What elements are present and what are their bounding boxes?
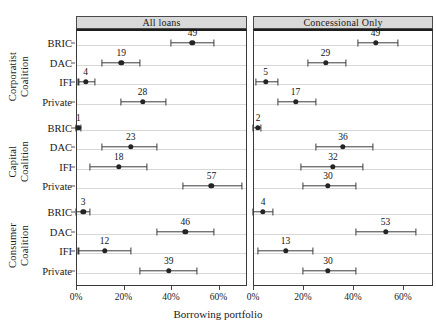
data-point-value: 12 xyxy=(100,236,110,246)
data-point-value: 1 xyxy=(76,113,81,123)
gridline xyxy=(254,169,432,170)
gridline xyxy=(254,273,432,274)
data-point-value: 32 xyxy=(328,152,338,162)
data-point-value: 3 xyxy=(81,197,86,207)
data-point-value: 29 xyxy=(321,48,331,58)
x-axis-tick xyxy=(403,286,404,290)
confidence-interval-cap xyxy=(90,163,91,170)
gridline xyxy=(254,84,432,85)
confidence-interval-cap xyxy=(78,248,79,255)
data-point-value: 4 xyxy=(261,197,266,207)
confidence-interval-cap xyxy=(140,59,141,66)
category-label-dac-3: DAC xyxy=(26,226,72,237)
category-tick xyxy=(71,212,75,213)
data-point-value: 49 xyxy=(371,28,381,38)
confidence-interval-cap xyxy=(415,228,416,235)
data-point-value: 13 xyxy=(281,236,291,246)
category-label-dac-2: DAC xyxy=(26,142,72,153)
data-point-value: 39 xyxy=(164,256,174,266)
confidence-interval-cap xyxy=(166,98,167,105)
confidence-interval-cap xyxy=(170,40,171,47)
x-axis-tick xyxy=(253,286,254,290)
confidence-interval-cap xyxy=(182,183,183,190)
data-point-value: 57 xyxy=(207,171,217,181)
category-label-ifi-2: IFI xyxy=(26,161,72,172)
confidence-interval-cap xyxy=(94,79,95,86)
data-point-value: 4 xyxy=(83,67,88,77)
category-tick xyxy=(71,62,75,63)
confidence-interval-cap xyxy=(372,144,373,151)
panel-plot-area-2 xyxy=(253,29,433,286)
data-point-value: 2 xyxy=(256,113,261,123)
category-label-private-2: Private xyxy=(26,181,72,192)
data-point-value: 36 xyxy=(338,132,348,142)
confidence-interval-cap xyxy=(130,248,131,255)
category-tick xyxy=(71,127,75,128)
confidence-interval-cap xyxy=(302,183,303,190)
confidence-interval xyxy=(358,42,398,43)
category-label-private-1: Private xyxy=(26,96,72,107)
gridline xyxy=(77,234,246,235)
confidence-interval-cap xyxy=(78,79,79,86)
gridline xyxy=(254,130,432,131)
panel-plot-area-1 xyxy=(76,29,247,286)
category-tick xyxy=(71,231,75,232)
gridline xyxy=(254,188,432,189)
confidence-interval-cap xyxy=(312,248,313,255)
group-label-line1: Corporatist xyxy=(7,34,19,120)
panel-title-2: Concessional Only xyxy=(253,16,433,29)
confidence-interval-cap xyxy=(252,124,253,131)
confidence-interval-cap xyxy=(252,209,253,216)
confidence-interval-cap xyxy=(345,59,346,66)
category-tick xyxy=(71,251,75,252)
confidence-interval-cap xyxy=(277,98,278,105)
confidence-interval-cap xyxy=(397,40,398,47)
x-axis-tick-label: 20% xyxy=(115,292,132,302)
gridline xyxy=(77,84,246,85)
x-axis-tick-label: 20% xyxy=(294,292,311,302)
category-label-private-3: Private xyxy=(26,265,72,276)
group-label-line1: Capital xyxy=(7,119,19,205)
gridline xyxy=(254,45,432,46)
x-axis-tick-label: 60% xyxy=(394,292,411,302)
confidence-interval-cap xyxy=(300,163,301,170)
data-point-value: 18 xyxy=(114,152,124,162)
x-axis-tick xyxy=(76,286,77,290)
confidence-interval-cap xyxy=(277,79,278,86)
confidence-interval-cap xyxy=(302,267,303,274)
confidence-interval-cap xyxy=(357,40,358,47)
confidence-interval-cap xyxy=(102,59,103,66)
confidence-interval-cap xyxy=(257,248,258,255)
category-label-bric-3: BRIC xyxy=(26,207,72,218)
category-tick xyxy=(71,101,75,102)
confidence-interval-cap xyxy=(307,59,308,66)
panel-title-1: All loans xyxy=(76,16,247,29)
confidence-interval-cap xyxy=(213,40,214,47)
confidence-interval-cap xyxy=(156,144,157,151)
data-point-value: 23 xyxy=(126,132,136,142)
x-axis-tick xyxy=(353,286,354,290)
confidence-interval-cap xyxy=(147,163,148,170)
category-tick xyxy=(71,147,75,148)
data-point-value: 49 xyxy=(188,28,198,38)
x-axis-title: Borrowing portfolio xyxy=(0,308,436,320)
gridline xyxy=(254,65,432,66)
data-point-value: 5 xyxy=(263,67,268,77)
chart-canvas: CorporatistCoalitionCapitalCoalitionCons… xyxy=(0,0,436,333)
category-label-bric-1: BRIC xyxy=(26,38,72,49)
category-label-ifi-3: IFI xyxy=(26,246,72,257)
confidence-interval-cap xyxy=(213,228,214,235)
data-point-value: 53 xyxy=(381,217,391,227)
gridline xyxy=(77,214,246,215)
gridline xyxy=(254,253,432,254)
confidence-interval-cap xyxy=(102,144,103,151)
confidence-interval-cap xyxy=(315,144,316,151)
x-axis-tick xyxy=(219,286,220,290)
x-axis-tick-label: 0% xyxy=(247,292,260,302)
confidence-interval-cap xyxy=(197,267,198,274)
confidence-interval-cap xyxy=(75,209,76,216)
category-tick xyxy=(71,186,75,187)
x-axis-tick-label: 40% xyxy=(162,292,179,302)
group-label-line1: Consumer xyxy=(7,203,19,289)
confidence-interval-cap xyxy=(140,267,141,274)
